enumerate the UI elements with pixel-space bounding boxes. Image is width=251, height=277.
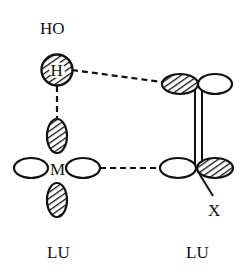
h-label: H — [51, 61, 63, 80]
lu-label-left: LU — [47, 243, 70, 262]
m-label: M — [50, 160, 65, 179]
bottom-pi-orbital — [160, 158, 233, 178]
metal-lobe-right — [66, 158, 100, 178]
metal-lobe-top — [47, 119, 67, 153]
h-atom-orbital: H — [42, 55, 73, 86]
orbital-diagram: HO H M X LU LU — [0, 0, 251, 277]
lu-label-right: LU — [186, 243, 209, 262]
ho-label: HO — [40, 19, 65, 38]
top-pi-orbital — [162, 74, 232, 94]
metal-lobe-left — [14, 158, 48, 178]
metal-d-orbital: M — [14, 119, 100, 217]
h-to-pi-dashed-bond — [72, 70, 162, 82]
metal-lobe-bottom — [47, 183, 67, 217]
x-label: X — [208, 201, 220, 220]
